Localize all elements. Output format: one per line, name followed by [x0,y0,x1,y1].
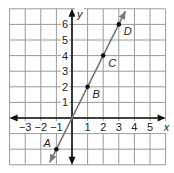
x-tick-label: 5 [147,121,153,133]
point-label-c: C [108,57,116,69]
arrow-down-icon [69,157,76,165]
x-tick-label: 4 [131,121,137,133]
point-label-b: B [93,88,100,100]
x-axis-label: x [163,121,170,133]
coordinate-plane: −3−2−112345123456xy ABCD [0,0,174,173]
point-label-a: A [42,137,50,149]
point-d [117,22,122,27]
y-tick-label: 3 [62,65,68,77]
y-tick-label: 2 [62,81,68,93]
point-b [85,85,90,90]
y-tick-label: 6 [62,18,68,30]
x-tick-label: 2 [100,121,106,133]
y-tick-label: 1 [62,96,68,108]
y-tick-label: 5 [62,34,68,46]
x-tick-label: 3 [116,121,122,133]
arrow-up-icon [69,9,76,17]
x-tick-label: −2 [35,121,48,133]
x-tick-label: −3 [19,121,32,133]
y-tick-label: 4 [62,50,68,62]
arrow-left-icon [10,115,18,122]
point-a [54,147,59,152]
point-label-d: D [124,25,132,37]
x-tick-label: 1 [85,121,91,133]
x-tick-label: −1 [50,121,63,133]
point-c [101,53,106,58]
